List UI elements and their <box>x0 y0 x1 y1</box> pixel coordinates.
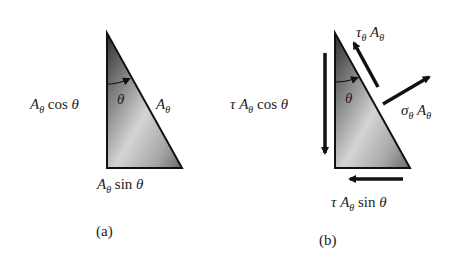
figure-a: θ Aθ cos θ Aθ Aθ sin θ (a) <box>29 33 182 240</box>
figure-b: θ τ Aθ cos θ τθ Aθ σθ Aθ τ Aθ sin θ (b) <box>230 24 431 249</box>
vertical-side-label: Aθ cos θ <box>29 96 80 115</box>
normal-stress-arrow <box>383 77 429 104</box>
caption-a: (a) <box>96 223 113 240</box>
angle-label-a: θ <box>117 91 125 107</box>
hypotenuse-label: Aθ <box>155 96 170 115</box>
angle-label-b: θ <box>345 90 353 106</box>
normal-force-label: σθ Aθ <box>401 102 431 121</box>
horizontal-side-label: Aθ sin θ <box>96 176 144 195</box>
left-force-label: τ Aθ cos θ <box>230 96 289 115</box>
shear-force-label: τθ Aθ <box>356 24 384 43</box>
caption-b: (b) <box>319 232 337 249</box>
bottom-force-label: τ Aθ sin θ <box>331 194 387 213</box>
stress-element-diagram: θ Aθ cos θ Aθ Aθ sin θ (a) θ τ Aθ cos θ … <box>0 0 458 262</box>
